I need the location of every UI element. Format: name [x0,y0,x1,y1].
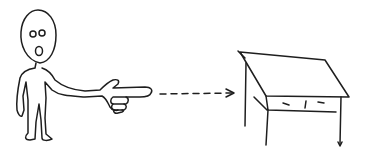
desk-leg-front-right [340,97,341,144]
sketch-illustration [0,0,365,161]
figure-eye-left [30,31,36,37]
figure-right-shoulder-arm [42,68,152,97]
drawer-handle-right [318,102,324,103]
arrow-shaft [160,93,232,94]
desk-top [240,52,349,97]
drawer-divider [305,101,306,108]
desk [238,51,349,146]
stick-figure [17,10,152,140]
dashed-arrow [160,89,234,97]
figure-body [17,63,118,140]
desk-front-panel [254,96,336,112]
desk-leg-back-left [245,63,246,126]
pointing-hand [111,97,129,113]
figure-eye-right [39,30,45,36]
drawer-handle-left [283,103,289,105]
figure-mouth [36,47,43,56]
desk-leg-front-left [266,110,268,145]
sketch-canvas [0,0,365,161]
